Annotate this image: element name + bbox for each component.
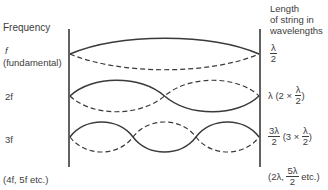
wave-second-harmonic-solid (70, 80, 259, 112)
wave-fundamental-solid (70, 38, 259, 54)
wave-fundamental (70, 38, 259, 70)
wave-third-harmonic-solid (70, 122, 259, 152)
wave-second-harmonic (70, 80, 259, 112)
wave-third-harmonic-dashed (70, 122, 259, 152)
wave-third-harmonic (70, 122, 259, 152)
standing-waves-diagram (0, 0, 328, 190)
wave-fundamental-dashed (70, 54, 259, 70)
